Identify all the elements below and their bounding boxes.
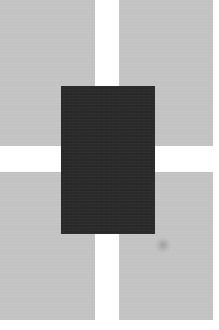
- center-dark-block: [61, 86, 155, 234]
- smudge-mark: [155, 237, 171, 253]
- artwork-canvas: [0, 0, 219, 330]
